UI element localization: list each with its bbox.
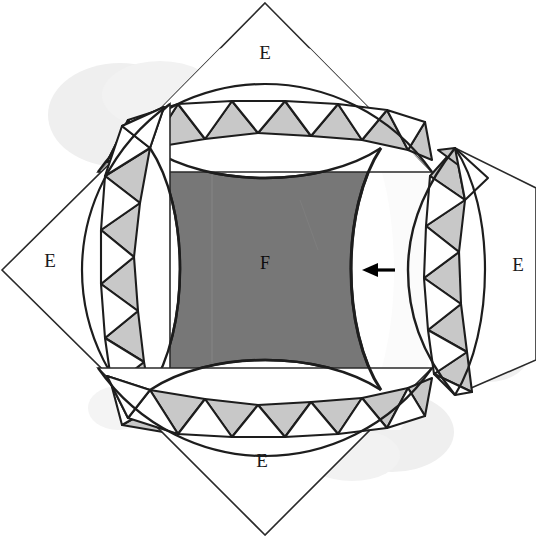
gap-pointer-arrow [362,263,395,277]
label-corner-top: E [259,42,271,63]
label-corner-right: E [512,254,524,275]
label-core-F: F [260,253,270,273]
geometric-diagram-svg: E E [0,0,536,541]
figure-canvas: E E [0,0,536,541]
label-corner-bottom: E [256,450,268,471]
label-corner-left: E [44,250,56,271]
